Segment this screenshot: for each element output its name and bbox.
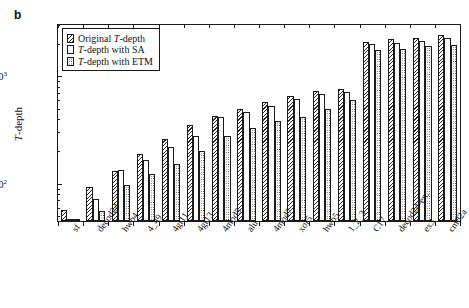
bar-alu-2 [250, 128, 256, 221]
legend-swatch-etm-icon [67, 57, 74, 66]
bar-group [363, 25, 382, 221]
legend-item-etm: T-depth with ETM [67, 56, 153, 67]
y-tick-minor [57, 81, 60, 82]
panel-label: b [14, 8, 21, 22]
x-tick-top [460, 24, 461, 28]
bar-4mod7-2 [275, 121, 281, 221]
bar-hwb5-2 [325, 109, 331, 221]
y-tick-minor [57, 208, 60, 209]
x-tick-top [184, 24, 185, 28]
y-tick-label-10e3: 103 [0, 70, 7, 82]
y-axis-title: T-depth [12, 84, 24, 164]
y-tick-label-10e2: 102 [0, 178, 7, 190]
legend-item-original: Original T-depth [67, 33, 153, 44]
x-tick-bottom [83, 222, 84, 226]
y-tick-minor [57, 109, 60, 110]
chart-legend: Original T-depth T-depth with SA T-depth… [62, 28, 160, 71]
x-tick-top [385, 24, 386, 28]
bar-group [212, 25, 231, 221]
y-tick-minor [57, 87, 60, 88]
bar-1-2-3-2 [350, 100, 356, 221]
bar-group [262, 25, 281, 221]
bar-group [338, 25, 357, 221]
bar-sf-2 [74, 219, 80, 221]
x-tick-bottom [58, 222, 59, 226]
x-tick-top [234, 24, 235, 28]
bar-c17-2 [375, 50, 381, 221]
bar-group [237, 25, 256, 221]
figure-panel-b: b T-depth 103102 sfdecod24hwb44_494gt114… [0, 0, 469, 308]
y-tick-minor [57, 119, 60, 120]
legend-label-etm: T-depth with ETM [78, 56, 153, 67]
bar-decod24-en--2 [400, 49, 406, 221]
bar-4gt13-2 [199, 151, 205, 221]
y-tick-major [57, 76, 62, 77]
x-tick-top [284, 24, 285, 28]
y-tick-minor [57, 132, 60, 133]
bar-group [438, 25, 457, 221]
bar-group [187, 25, 206, 221]
y-tick-minor [57, 100, 60, 101]
bar-group [388, 25, 407, 221]
y-tick-minor [57, 194, 60, 195]
legend-label-sa: T-depth with SA [78, 44, 145, 55]
x-tick-top [435, 24, 436, 28]
legend-label-original: Original T-depth [78, 33, 145, 44]
x-tick-top [334, 24, 335, 28]
y-tick-minor [57, 200, 60, 201]
y-tick-minor [57, 151, 60, 152]
y-tick-minor [57, 216, 60, 217]
legend-swatch-sa-icon [67, 45, 74, 54]
legend-item-sa: T-depth with SA [67, 44, 153, 55]
x-tick-top [259, 24, 260, 28]
bar-cm82a-2 [451, 45, 457, 221]
y-tick-minor [57, 44, 60, 45]
x-tick-top [209, 24, 210, 28]
bar-group [162, 25, 181, 221]
x-tick-top [309, 24, 310, 28]
x-tick-top [58, 24, 59, 28]
x-tick-top [410, 24, 411, 28]
y-tick-minor [57, 189, 60, 190]
y-tick-minor [57, 93, 60, 94]
x-axis-label-sf: sf [70, 222, 82, 233]
bar-4mod5-2 [224, 136, 230, 221]
bar-group [313, 25, 332, 221]
legend-swatch-original-icon [67, 34, 74, 43]
x-tick-top [360, 24, 361, 28]
bar-xor5-2 [300, 117, 306, 221]
bar-group [287, 25, 306, 221]
y-tick-major [57, 184, 62, 185]
